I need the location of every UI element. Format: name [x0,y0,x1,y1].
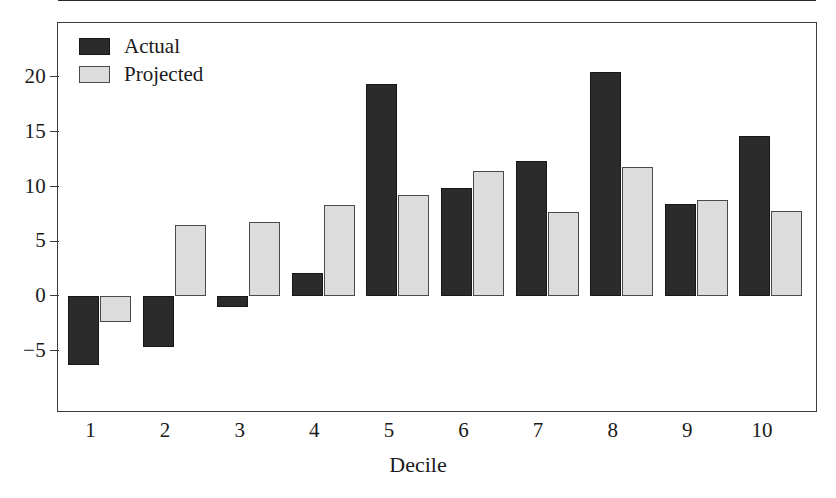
bar-projected-decile-7 [548,212,579,296]
bar-projected-decile-3 [249,222,280,296]
bar-projected-decile-2 [175,225,206,296]
y-axis-tick [50,131,59,132]
chart-legend: Actual Projected [79,33,279,89]
bar-actual-decile-6 [441,188,472,296]
bar-actual-decile-9 [665,204,696,296]
y-axis-tick-label-text: 20 [6,66,46,87]
y-axis-tick-label-text: −5 [6,340,46,361]
legend-item-projected: Projected [79,61,279,87]
y-axis-tick-label: 15 [0,121,46,142]
x-axis-tick-label-2: 2 [135,418,195,442]
bar-actual-decile-5 [366,84,397,296]
x-axis-tick-label-4: 4 [284,418,344,442]
bar-chart: 20151050−5 12345678910 Decile Actual Pro… [0,0,836,498]
bar-actual-decile-1 [68,296,99,365]
x-axis-tick-label-10: 10 [732,418,792,442]
zero-baseline [58,0,816,1]
legend-label-projected: Projected [124,64,203,85]
bar-actual-decile-4 [292,273,323,296]
x-axis-tick-label-6: 6 [434,418,494,442]
legend-item-actual: Actual [79,33,279,59]
y-axis-tick [50,295,59,296]
dark-square-swatch-icon [79,38,110,55]
bar-projected-decile-10 [771,211,802,296]
y-axis-tick-label: 20 [0,66,46,87]
y-axis-tick-label: 5 [0,230,46,251]
y-axis-tick-label-text: 10 [6,176,46,197]
x-axis-title: Decile [0,452,836,478]
y-axis-tick [50,76,59,77]
bar-projected-decile-5 [398,195,429,296]
bar-actual-decile-10 [739,136,770,296]
y-axis-tick-label-text: 5 [6,230,46,251]
bar-projected-decile-9 [697,200,728,296]
bar-actual-decile-7 [516,161,547,296]
x-axis-tick-label-7: 7 [508,418,568,442]
x-axis-tick-label-3: 3 [210,418,270,442]
bar-projected-decile-1 [100,296,131,322]
x-axis-tick-label-9: 9 [657,418,717,442]
y-axis-tick [50,186,59,187]
light-square-swatch-icon [79,66,110,83]
legend-label-actual: Actual [124,36,180,57]
x-axis-tick-label-5: 5 [359,418,419,442]
y-axis-tick-label: 10 [0,176,46,197]
y-axis-tick [50,241,59,242]
bar-actual-decile-8 [590,72,621,296]
bar-projected-decile-6 [473,171,504,296]
bar-actual-decile-2 [143,296,174,347]
bar-projected-decile-4 [324,205,355,296]
y-axis-tick-label: −5 [0,340,46,361]
bar-projected-decile-8 [622,167,653,296]
y-axis-tick [50,350,59,351]
bar-actual-decile-3 [217,296,248,307]
y-axis-tick-label-text: 15 [6,121,46,142]
x-axis-tick-label-1: 1 [61,418,121,442]
y-axis-tick-label: 0 [0,285,46,306]
y-axis-tick-label-text: 0 [6,285,46,306]
x-axis-tick-label-8: 8 [583,418,643,442]
